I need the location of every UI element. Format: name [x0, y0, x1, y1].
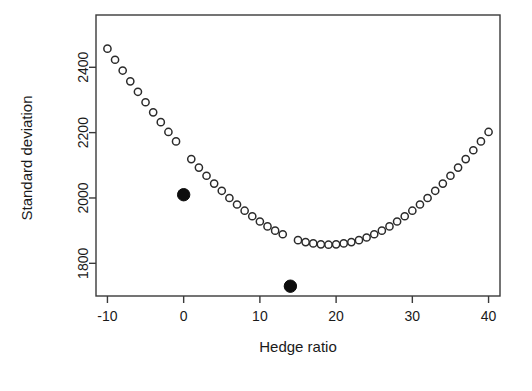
data-point-open [348, 238, 355, 245]
y-tick-label: 2400 [75, 51, 91, 82]
plot-canvas: 1800200022002400 -10010203040 Hedge rati… [0, 0, 532, 391]
data-point-open [393, 218, 400, 225]
data-point-open [264, 223, 271, 230]
data-point-open [401, 213, 408, 220]
y-tick-label: 2200 [75, 117, 91, 148]
data-point-open [462, 155, 469, 162]
data-point-open [195, 164, 202, 171]
data-point-open [150, 109, 157, 116]
x-tick-label: 20 [328, 308, 344, 324]
data-point-open [119, 67, 126, 74]
data-point-open [310, 240, 317, 247]
data-point-open [256, 218, 263, 225]
data-point-open [386, 223, 393, 230]
data-point-open [439, 180, 446, 187]
data-point-open [203, 172, 210, 179]
data-point-open [279, 231, 286, 238]
data-point-open [134, 88, 141, 95]
data-point-open [317, 241, 324, 248]
data-point-open [111, 56, 118, 63]
data-point-open [424, 194, 431, 201]
data-point-open [470, 147, 477, 154]
data-point-open [272, 227, 279, 234]
data-point-open [409, 207, 416, 214]
data-point-open [371, 231, 378, 238]
data-point-open [477, 138, 484, 145]
y-tick-label: 1800 [75, 248, 91, 279]
data-point-open [157, 119, 164, 126]
data-point-open [142, 99, 149, 106]
data-point-open [104, 45, 111, 52]
x-tick-label: -10 [97, 308, 117, 324]
x-tick-label: 0 [180, 308, 188, 324]
highlighted-point-unhedged [177, 189, 189, 201]
x-tick-label: 10 [252, 308, 268, 324]
y-tick-label: 2000 [75, 182, 91, 213]
data-point-open [241, 207, 248, 214]
data-point-open [127, 78, 134, 85]
data-point-open [355, 237, 362, 244]
x-tick-label: 30 [405, 308, 421, 324]
data-point-open [325, 241, 332, 248]
data-point-open [165, 128, 172, 135]
data-point-open [485, 128, 492, 135]
data-point-open [249, 213, 256, 220]
scatter-plot-figure: 1800200022002400 -10010203040 Hedge rati… [0, 0, 532, 391]
x-tick-label: 40 [481, 308, 497, 324]
data-point-open [454, 164, 461, 171]
data-point-open [416, 201, 423, 208]
data-point-open [363, 234, 370, 241]
data-point-open [378, 227, 385, 234]
data-point-open [294, 237, 301, 244]
data-point-open [218, 187, 225, 194]
data-point-open [340, 240, 347, 247]
data-point-open [188, 155, 195, 162]
y-axis-title: Standard deviation [18, 95, 35, 220]
data-point-open [302, 238, 309, 245]
data-point-open [432, 187, 439, 194]
data-point-open [226, 194, 233, 201]
x-axis-title: Hedge ratio [259, 338, 337, 355]
data-point-open [172, 138, 179, 145]
data-point-open [333, 241, 340, 248]
highlighted-point-minimum-variance [284, 280, 296, 292]
data-point-open [447, 172, 454, 179]
data-point-open [211, 180, 218, 187]
data-point-open [233, 201, 240, 208]
